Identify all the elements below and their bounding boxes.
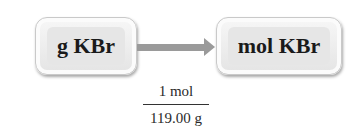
from-box-label: g KBr xyxy=(47,27,125,65)
conversion-numerator: 1 mol xyxy=(143,82,209,100)
arrow-right-icon xyxy=(204,38,215,56)
arrow-shaft xyxy=(137,44,205,51)
to-box-label: mol KBr xyxy=(228,27,331,65)
to-box-moles-kbr: mol KBr xyxy=(216,17,342,75)
from-box-grams-kbr: g KBr xyxy=(35,17,137,75)
conversion-factor: 1 mol 119.00 g xyxy=(143,82,209,127)
conversion-denominator: 119.00 g xyxy=(143,109,209,127)
fraction-bar xyxy=(143,104,209,105)
